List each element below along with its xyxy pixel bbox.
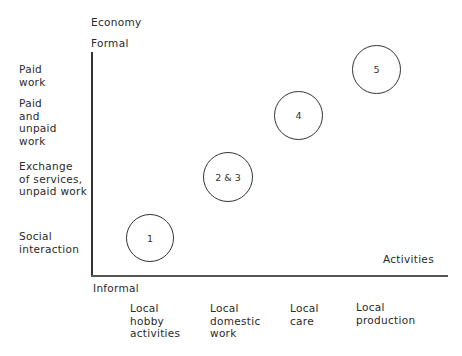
x-category-domestic: Local domestic work — [210, 302, 260, 340]
y-category-exchange-services: Exchange of services, unpaid work — [19, 160, 87, 198]
y-category-social-interaction: Social interaction — [19, 230, 79, 255]
node-5: 5 — [352, 45, 401, 94]
node-2-3: 2 & 3 — [203, 152, 253, 202]
node-1-label: 1 — [147, 233, 153, 244]
y-category-paid-work: Paid work — [19, 63, 46, 88]
x-axis-title: Activities — [383, 253, 434, 266]
y-axis-line — [91, 52, 93, 277]
x-category-production: Local production — [356, 301, 415, 326]
node-2-3-label: 2 & 3 — [215, 172, 241, 183]
x-axis-line — [91, 275, 448, 277]
x-category-hobby: Local hobby activities — [130, 302, 180, 340]
y-category-paid-unpaid-work: Paid and unpaid work — [19, 97, 57, 147]
node-1: 1 — [126, 214, 174, 262]
y-axis-top-label: Formal — [91, 37, 129, 50]
y-axis-bottom-label: Informal — [93, 282, 139, 295]
y-axis-title: Economy — [91, 16, 141, 29]
node-5-label: 5 — [373, 64, 379, 75]
node-4-label: 4 — [295, 110, 301, 121]
node-4: 4 — [274, 91, 323, 140]
x-category-care: Local care — [290, 302, 319, 327]
